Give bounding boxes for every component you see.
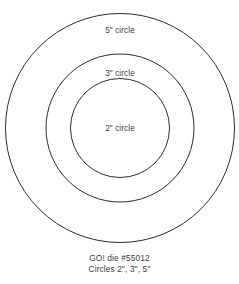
die-caption-line-2: Circles 2", 3", 5" <box>0 264 239 275</box>
die-sheet: 5" circle 3" circle 2" circle GO! die #5… <box>0 0 239 284</box>
circle-label-inner: 2" circle <box>105 125 135 133</box>
circle-label-middle: 3" circle <box>105 70 135 78</box>
die-caption-line-1: GO! die #55012 <box>0 253 239 264</box>
die-caption: GO! die #55012 Circles 2", 3", 5" <box>0 253 239 274</box>
circle-label-outer: 5" circle <box>105 27 135 35</box>
